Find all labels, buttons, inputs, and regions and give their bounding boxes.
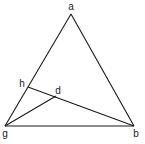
segment-ab [71, 14, 134, 126]
label-g: g [2, 128, 8, 139]
triangle-diagram: a g b h d [0, 0, 145, 144]
segments [5, 14, 134, 126]
label-h: h [19, 78, 25, 89]
label-b: b [133, 128, 139, 139]
label-d: d [55, 85, 61, 96]
segment-gd [5, 96, 56, 126]
label-a: a [68, 1, 74, 12]
segment-ag [5, 14, 71, 126]
labels: a g b h d [2, 1, 139, 139]
segment-hb [28, 87, 134, 126]
